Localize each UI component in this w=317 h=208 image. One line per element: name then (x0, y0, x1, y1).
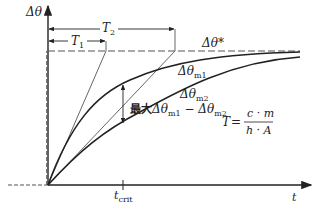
curve-m1-label: Δθm1 (177, 64, 207, 80)
heating-curve-diagram: Δθ t tcrit T1 T2 Δθ* Δθm1 Δθm2 最大Δθm1 − … (0, 0, 317, 208)
svg-text:h · A: h · A (246, 124, 272, 137)
max-difference-label: 最大Δθm1 − Δθm2 (130, 102, 227, 118)
asymptote-label: Δθ* (201, 36, 224, 50)
y-axis-label: Δθ (25, 5, 43, 19)
t2-label: T2 (102, 21, 115, 37)
time-constant-formula: T= c · m h · A (222, 107, 274, 137)
t-axis-label: t (292, 191, 297, 204)
curve-m2 (48, 57, 300, 185)
t1-label: T1 (71, 34, 84, 50)
svg-text:c · m: c · m (247, 107, 274, 120)
curve-m2-label: Δθm2 (179, 87, 209, 103)
t-crit-label: tcrit (114, 189, 133, 204)
svg-text:T=: T= (222, 115, 241, 129)
